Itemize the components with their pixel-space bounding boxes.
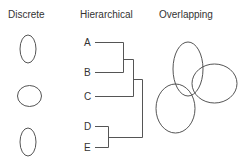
clustering-types-diagram: Discrete Hierarchical Overlapping A B C …	[0, 0, 250, 165]
discrete-cluster-2	[18, 86, 42, 107]
overlapping-cluster-right	[192, 64, 237, 103]
title-overlapping: Overlapping	[159, 9, 213, 20]
dendrogram: A B C D E	[84, 37, 143, 153]
discrete-clusters	[18, 35, 42, 156]
branch-a-b	[95, 43, 124, 73]
leaf-label-d: D	[84, 121, 91, 132]
leaf-label-c: C	[84, 91, 91, 102]
discrete-cluster-1	[20, 35, 36, 63]
title-hierarchical: Hierarchical	[80, 9, 133, 20]
branch-d-e	[95, 127, 109, 148]
leaf-label-a: A	[84, 37, 91, 48]
leaf-label-e: E	[84, 142, 91, 153]
leaf-label-b: B	[84, 67, 91, 78]
overlapping-cluster-bottom-left	[156, 84, 195, 133]
title-discrete: Discrete	[8, 9, 45, 20]
overlapping-cluster-top	[173, 42, 203, 96]
discrete-cluster-3	[20, 128, 36, 156]
branch-c	[95, 60, 134, 97]
overlapping-clusters	[156, 42, 237, 133]
